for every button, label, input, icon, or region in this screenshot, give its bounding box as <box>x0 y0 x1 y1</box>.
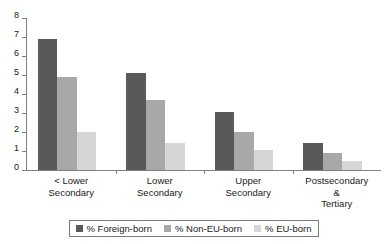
bar-group-bars <box>27 18 116 170</box>
y-axis-tick-label: 0 <box>14 163 19 172</box>
bar <box>57 77 76 170</box>
bar-group <box>116 18 205 170</box>
bar-group <box>27 18 116 170</box>
x-axis-label: < Lower Secondary <box>27 175 116 210</box>
legend-item-label: % EU-born <box>265 223 311 234</box>
bar <box>126 73 145 170</box>
bar <box>165 143 184 170</box>
y-axis-tick-label: 3 <box>14 106 19 115</box>
bar <box>303 143 322 170</box>
x-axis-labels: < Lower SecondaryLower SecondaryUpper Se… <box>27 175 381 210</box>
x-axis-tick-mark <box>293 170 294 174</box>
bar <box>254 150 273 170</box>
legend-item[interactable]: % Non-EU-born <box>164 223 242 234</box>
legend-item[interactable]: % EU-born <box>254 223 311 234</box>
y-axis-tick-label: 2 <box>14 125 19 134</box>
y-axis-tick-label: 6 <box>14 49 19 58</box>
bar <box>215 112 234 170</box>
bar-groups <box>27 18 381 170</box>
bar <box>342 161 361 171</box>
bar <box>146 100 165 170</box>
chart-legend: % Foreign-born% Non-EU-born% EU-born <box>68 220 318 237</box>
bar <box>323 153 342 170</box>
y-axis-tick-label: 5 <box>14 68 19 77</box>
y-axis: 876543210 <box>0 18 26 170</box>
bar-group-bars <box>204 18 293 170</box>
x-axis-tick-mark <box>204 170 205 174</box>
bar <box>38 39 57 170</box>
x-axis-label: Upper Secondary <box>204 175 293 210</box>
bar <box>234 132 253 170</box>
legend-swatch-icon <box>75 225 82 232</box>
x-axis-label: Postsecondary & Tertiary <box>293 175 382 210</box>
bar-group <box>293 18 382 170</box>
legend-swatch-icon <box>254 225 261 232</box>
bar-group <box>204 18 293 170</box>
x-axis-label: Lower Secondary <box>116 175 205 210</box>
y-axis-tick-label: 1 <box>14 144 19 153</box>
y-axis-tick-label: 7 <box>14 30 19 39</box>
legend-swatch-icon <box>164 225 171 232</box>
bar <box>77 132 96 170</box>
y-axis-tick-label: 4 <box>14 87 19 96</box>
bar-chart: 876543210 < Lower SecondaryLower Seconda… <box>0 0 387 244</box>
legend-item-label: % Foreign-born <box>86 223 151 234</box>
x-axis-tick-mark <box>116 170 117 174</box>
bar-group-bars <box>116 18 205 170</box>
y-axis-tick-label: 8 <box>14 11 19 20</box>
legend-item-label: % Non-EU-born <box>175 223 242 234</box>
bar-group-bars <box>293 18 382 170</box>
legend-item[interactable]: % Foreign-born <box>75 223 151 234</box>
